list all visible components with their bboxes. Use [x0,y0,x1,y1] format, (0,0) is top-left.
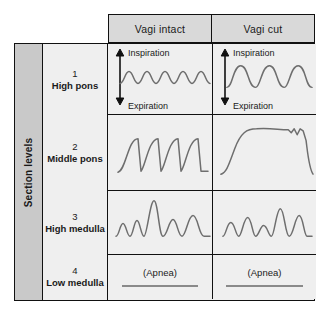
cell-middle-pons-vagi-cut [212,115,316,191]
row-label-low-medulla: 4 Low medulla [43,255,107,299]
column-header-label: Vagi cut [244,23,283,35]
row-name: High medulla [45,223,105,235]
apnea-label: (Apnea) [143,267,177,278]
waveform-middle-pons-vagi-intact [108,115,212,190]
waveform-high-pons-vagi-cut [213,44,316,114]
section-levels-label: Section levels [23,137,34,207]
section-levels-axis: Section levels [15,44,43,300]
row-name: Middle pons [47,153,102,165]
cell-high-medulla-vagi-intact [108,191,212,255]
row-label-high-pons: 1 High pons [43,44,107,115]
column-header-row: Vagi intact Vagi cut [108,14,315,43]
cell-low-medulla-vagi-intact: (Apnea) [108,255,212,299]
cell-high-pons-vagi-intact: Inspiration Expiration [108,44,212,115]
row-label-middle-pons: 2 Middle pons [43,115,107,191]
column-header-label: Vagi intact [135,23,185,35]
cell-low-medulla-vagi-cut: (Apnea) [212,255,316,299]
row-name: Low medulla [46,277,104,289]
apnea-block: (Apnea) [108,255,212,299]
apnea-block: (Apnea) [213,255,316,299]
column-header-vagi-intact: Vagi intact [109,15,211,42]
row-number: 2 [72,141,77,153]
row-label-column: 1 High pons 2 Middle pons 3 High medulla… [43,44,108,300]
column-header-vagi-cut: Vagi cut [211,15,314,42]
row-label-high-medulla: 3 High medulla [43,191,107,255]
apnea-label: (Apnea) [248,267,282,278]
cell-high-medulla-vagi-cut [212,191,316,255]
flat-line-trace [122,285,199,287]
waveform-high-medulla-vagi-cut [213,191,316,254]
row-number: 3 [72,211,77,223]
row-number: 1 [72,68,77,80]
respiratory-pattern-figure: Vagi intact Vagi cut Section levels 1 Hi… [0,0,327,314]
flat-line-trace [226,285,302,287]
waveform-grid: Inspiration Expiration Inspiration Expir… [108,44,314,300]
row-name: High pons [52,80,98,92]
waveform-middle-pons-vagi-cut [213,115,316,190]
figure-body: Section levels 1 High pons 2 Middle pons… [14,43,315,301]
cell-high-pons-vagi-cut: Inspiration Expiration [212,44,316,115]
row-number: 4 [72,265,77,277]
waveform-high-medulla-vagi-intact [108,191,212,254]
cell-middle-pons-vagi-intact [108,115,212,191]
waveform-high-pons-vagi-intact [108,44,212,114]
